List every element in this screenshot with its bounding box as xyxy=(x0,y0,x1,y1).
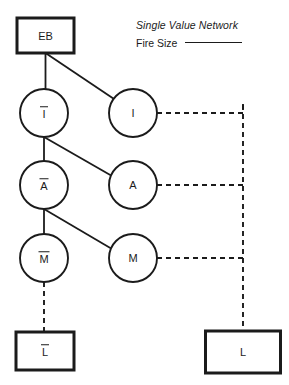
dashed-edges xyxy=(44,104,243,332)
legend-fire-size-row: Fire Size xyxy=(136,37,286,49)
node-label-m: M xyxy=(128,253,137,264)
node-label-a-bar: A xyxy=(40,178,49,192)
node-label-m-bar: M xyxy=(39,251,50,265)
node-label-l-bar: L xyxy=(41,344,49,358)
legend-title: Single Value Network xyxy=(136,19,286,31)
node-label-i: I xyxy=(131,108,134,119)
solid-edges xyxy=(44,53,120,249)
node-label-i-bar: I xyxy=(40,106,48,120)
node-label-l: L xyxy=(240,347,246,358)
diagram-canvas: EB I I A A M M L L Single Value Network … xyxy=(0,0,289,385)
legend-fire-size-label: Fire Size xyxy=(136,37,177,49)
legend: Single Value Network Fire Size xyxy=(136,19,286,49)
node-label-eb: EB xyxy=(38,30,53,41)
edge-i-to-bus xyxy=(157,104,243,113)
node-label-a: A xyxy=(129,180,136,191)
network-diagram xyxy=(0,0,289,385)
legend-fire-size-blank[interactable] xyxy=(185,42,242,43)
